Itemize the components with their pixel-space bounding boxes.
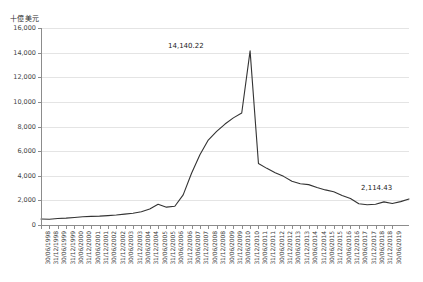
y-axis-tick — [38, 176, 41, 177]
x-axis-label: 30/06/2013 — [294, 231, 301, 265]
y-axis-tick — [38, 28, 41, 29]
x-axis-tick — [384, 226, 385, 229]
y-axis-label-text: 10,000 — [2, 98, 36, 106]
y-axis-label-text: 2,000 — [2, 196, 36, 204]
x-axis-tick — [317, 226, 318, 229]
y-axis-label: 4,000 — [0, 172, 36, 180]
peak-value-label: 14,140.22 — [168, 42, 204, 50]
x-axis-label: 31/12/2015 — [336, 231, 343, 265]
x-axis-tick — [58, 226, 59, 229]
x-axis-label: 31/12/2018 — [386, 231, 393, 265]
y-axis-label: 8,000 — [0, 123, 36, 131]
x-axis-tick — [74, 226, 75, 229]
x-axis-label: 30/06/2001 — [94, 231, 101, 265]
x-axis-label: 31/12/2006 — [186, 231, 193, 265]
x-axis-tick — [225, 226, 226, 229]
y-axis-tick — [38, 200, 41, 201]
x-axis-label: 31/12/2008 — [219, 231, 226, 265]
x-axis-label: 31/12/2010 — [253, 231, 260, 265]
x-axis-label: 31/12/2007 — [202, 231, 209, 265]
x-axis-tick — [116, 226, 117, 229]
x-axis-label: 31/12/2012 — [286, 231, 293, 265]
x-axis-tick — [376, 226, 377, 229]
x-axis-label: 30/06/2002 — [110, 231, 117, 265]
x-axis-tick — [350, 226, 351, 229]
y-axis-label-text: 14,000 — [2, 49, 36, 57]
x-axis-tick — [309, 226, 310, 229]
y-axis-label: 10,000 — [0, 98, 36, 106]
x-axis-label: 31/12/2002 — [119, 231, 126, 265]
x-axis-tick — [334, 226, 335, 229]
x-axis-label: 31/12/2017 — [370, 231, 377, 265]
x-axis-tick — [300, 226, 301, 229]
y-axis-tick — [38, 53, 41, 54]
y-axis-title: 十億美元 — [10, 13, 39, 23]
y-axis-label-text: 12,000 — [2, 73, 36, 81]
x-axis-tick — [100, 226, 101, 229]
y-axis-label: 16,000 — [0, 24, 36, 32]
x-axis-tick — [267, 226, 268, 229]
x-axis-label: 30/06/2018 — [378, 231, 385, 265]
x-axis-tick — [41, 226, 42, 229]
x-axis-tick — [250, 226, 251, 229]
x-axis-label: 30/06/2015 — [328, 231, 335, 265]
y-axis-tick — [38, 127, 41, 128]
x-axis-label: 31/12/2005 — [169, 231, 176, 265]
x-axis-label: 31/12/2011 — [269, 231, 276, 265]
x-axis-tick — [233, 226, 234, 229]
x-axis-label: 30/06/2006 — [177, 231, 184, 265]
x-axis-label: 30/06/2007 — [194, 231, 201, 265]
x-axis-tick — [342, 226, 343, 229]
x-axis-tick — [208, 226, 209, 229]
x-axis-label: 30/06/1999 — [60, 231, 67, 265]
y-axis-label-text: 4,000 — [2, 172, 36, 180]
x-axis-tick — [217, 226, 218, 229]
y-axis-label: 6,000 — [0, 147, 36, 155]
x-axis-label: 30/06/2011 — [261, 231, 268, 265]
x-axis-tick — [325, 226, 326, 229]
y-axis-label: 12,000 — [0, 73, 36, 81]
x-axis-tick — [66, 226, 67, 229]
y-axis-tick — [38, 102, 41, 103]
plot-area — [41, 28, 409, 225]
x-axis-tick — [242, 226, 243, 229]
x-axis-tick — [125, 226, 126, 229]
x-axis-label: 30/06/2010 — [244, 231, 251, 265]
x-axis-label: 31/12/2009 — [236, 231, 243, 265]
x-axis-label: 31/12/2016 — [353, 231, 360, 265]
x-axis-tick — [91, 226, 92, 229]
x-axis-label: 31/12/2013 — [303, 231, 310, 265]
y-axis-label-text: 16,000 — [2, 24, 36, 32]
x-axis-tick — [292, 226, 293, 229]
x-axis-tick — [49, 226, 50, 229]
x-axis-label: 30/06/2017 — [361, 231, 368, 265]
x-axis-tick — [141, 226, 142, 229]
x-axis-tick — [158, 226, 159, 229]
y-axis-label: 2,000 — [0, 196, 36, 204]
series-line — [41, 28, 409, 225]
x-axis-tick — [284, 226, 285, 229]
x-axis-label: 30/06/2014 — [311, 231, 318, 265]
y-axis-label-text: 8,000 — [2, 123, 36, 131]
x-axis-tick — [175, 226, 176, 229]
y-axis-label-text: 6,000 — [2, 147, 36, 155]
x-axis-label: 30/06/2016 — [345, 231, 352, 265]
x-axis-tick — [367, 226, 368, 229]
y-axis-label: 0 — [0, 221, 36, 229]
x-axis-tick — [183, 226, 184, 229]
x-axis-label: 30/06/2004 — [144, 231, 151, 265]
x-axis-tick — [392, 226, 393, 229]
x-axis-label: 30/06/2008 — [211, 231, 218, 265]
x-axis-label: 31/12/2003 — [136, 231, 143, 265]
last-value-label: 2,114.43 — [361, 184, 392, 192]
y-axis-label-text: 0 — [2, 221, 36, 229]
x-axis-tick — [150, 226, 151, 229]
y-axis-tick — [38, 77, 41, 78]
x-axis-label: 31/12/1999 — [69, 231, 76, 265]
x-axis-tick — [359, 226, 360, 229]
x-axis-label: 30/06/2003 — [127, 231, 134, 265]
x-axis-tick — [108, 226, 109, 229]
x-axis-label: 31/12/2001 — [102, 231, 109, 265]
x-axis-tick — [200, 226, 201, 229]
x-axis-label: 31/12/2014 — [320, 231, 327, 265]
